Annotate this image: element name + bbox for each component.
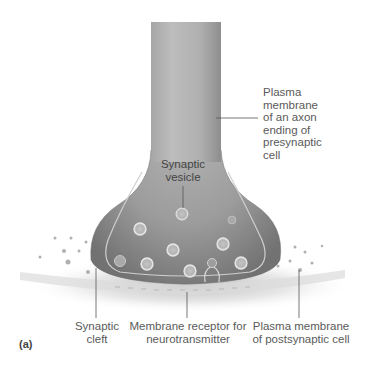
membrane-receptor-label: Membrane receptor for neurotransmitter [128, 320, 248, 345]
panel-label: (a) [19, 338, 32, 350]
synaptic-cleft-label: Synaptic cleft [70, 320, 124, 345]
synapse-diagram [0, 0, 366, 370]
presynaptic-membrane-label: Plasma membrane of an axon ending of pre… [263, 86, 322, 161]
synaptic-vesicle-label: Synaptic vesicle [152, 158, 214, 183]
axon-shaft [151, 22, 221, 162]
labeled-vesicle [176, 208, 188, 220]
postsynaptic-membrane-label: Plasma membrane of postsynaptic cell [250, 320, 352, 345]
